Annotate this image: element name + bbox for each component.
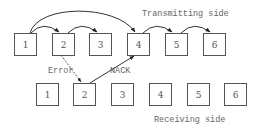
receiving-side-label: Receiving side xyxy=(154,115,225,125)
tx-packet-4: 4 xyxy=(128,34,150,56)
tx-packet-3: 3 xyxy=(90,34,112,56)
tx-packet-6: 6 xyxy=(204,34,226,56)
arrow-tx1-tx4 xyxy=(30,11,135,33)
transmitting-side-label: Transmitting side xyxy=(142,9,229,19)
transmit-row: 123456 xyxy=(15,34,226,56)
tx-packet-1: 1 xyxy=(15,34,37,56)
receive-row: 123456 xyxy=(37,84,247,106)
arq-diagram: Transmitting side Receiving side Error N… xyxy=(0,0,262,131)
tx-packet-number: 2 xyxy=(61,40,67,50)
rx-packet-number: 6 xyxy=(233,90,239,100)
tx-packet-5: 5 xyxy=(166,34,188,56)
nack-label: NACK xyxy=(110,66,131,76)
rx-packet-2: 2 xyxy=(74,84,96,106)
arrow-tx1-tx2 xyxy=(31,26,59,33)
rx-packet-number: 5 xyxy=(196,90,202,100)
tx-packet-number: 3 xyxy=(98,40,104,50)
tx-packet-2: 2 xyxy=(53,34,75,56)
tx-packet-number: 1 xyxy=(23,40,29,50)
error-label: Error xyxy=(48,66,74,76)
arrow-tx5-tx6 xyxy=(181,26,210,33)
rx-packet-5: 5 xyxy=(188,84,210,106)
tx-packet-number: 5 xyxy=(174,40,180,50)
rx-packet-4: 4 xyxy=(150,84,172,106)
arrow-tx4-tx5 xyxy=(143,26,172,33)
rx-packet-6: 6 xyxy=(225,84,247,106)
rx-packet-number: 3 xyxy=(120,90,126,100)
rx-packet-number: 4 xyxy=(158,90,164,100)
arrow-tx2-tx3 xyxy=(68,26,97,33)
rx-packet-3: 3 xyxy=(112,84,134,106)
rx-packet-number: 2 xyxy=(82,90,88,100)
rx-packet-number: 1 xyxy=(45,90,51,100)
tx-packet-number: 4 xyxy=(136,40,142,50)
rx-packet-1: 1 xyxy=(37,84,59,106)
tx-packet-number: 6 xyxy=(212,40,218,50)
